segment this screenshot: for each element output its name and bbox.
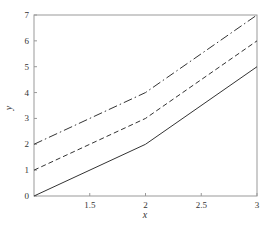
y-axis-ticks: 01234567 [25, 10, 38, 201]
y-tick-label: 5 [25, 62, 30, 72]
x-tick-label: 1.5 [84, 200, 96, 210]
series-line-dash-dot [34, 15, 257, 144]
y-tick-label: 7 [25, 10, 30, 20]
y-tick-label: 3 [25, 113, 30, 123]
x-tick-label: 2.5 [196, 200, 208, 210]
series-line-dashed [34, 41, 257, 170]
plot-frame [34, 15, 257, 196]
y-tick-label: 2 [25, 139, 30, 149]
line-chart: 01234567 1.522.53 x y [0, 0, 270, 227]
y-axis-label: y [3, 105, 14, 111]
y-tick-label: 4 [25, 88, 30, 98]
x-axis-label: x [142, 209, 148, 220]
series-line-solid [34, 67, 257, 196]
x-tick-label: 3 [255, 200, 260, 210]
y-tick-label: 1 [25, 165, 30, 175]
y-tick-label: 0 [25, 191, 30, 201]
y-tick-label: 6 [25, 36, 30, 46]
series-lines [34, 15, 257, 196]
